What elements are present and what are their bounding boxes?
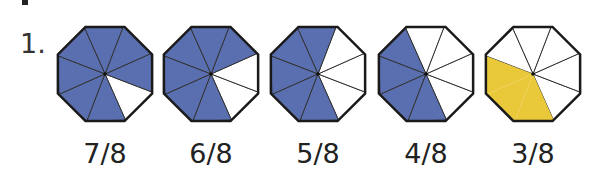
fraction-label-3: 5/8	[278, 138, 358, 169]
octagon-2	[164, 27, 258, 121]
octagon-4	[379, 27, 473, 121]
fraction-label-4: 4/8	[386, 138, 466, 169]
fraction-label-2: 6/8	[171, 138, 251, 169]
octagon-5	[486, 27, 580, 121]
octagon-1	[58, 27, 152, 121]
octagon-3	[271, 27, 365, 121]
fraction-label-1: 7/8	[65, 138, 145, 169]
fraction-label-5: 3/8	[493, 138, 573, 169]
